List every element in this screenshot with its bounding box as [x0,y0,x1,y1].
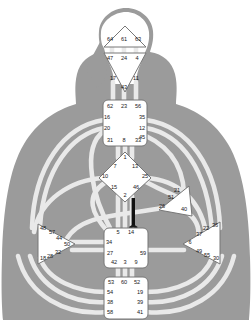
bodygraph-svg: 646163 47244171143 622356163520124531833… [0,0,252,336]
center-root[interactable] [104,277,148,319]
center-throat[interactable] [103,100,147,146]
bodygraph-canvas: 646163 47244171143 622356163520124531833… [0,0,252,336]
center-sacral[interactable] [104,228,148,268]
